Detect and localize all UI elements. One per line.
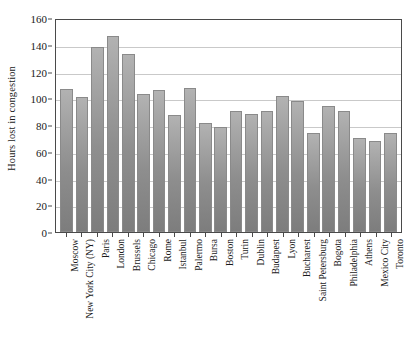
y-tick-mark	[48, 233, 52, 234]
x-tick-label: Toronto	[396, 239, 406, 269]
bar	[153, 90, 166, 232]
y-tick-mark	[48, 99, 52, 100]
y-tick-label: 100	[31, 94, 48, 105]
x-tick-label-cell: London	[106, 238, 119, 356]
x-tick-label-cell: Istanbul	[168, 238, 181, 356]
y-tick-label: 0	[42, 228, 48, 239]
bar	[184, 88, 197, 232]
y-tick-mark	[48, 206, 52, 207]
bar	[122, 54, 135, 232]
y-tick-mark	[48, 72, 52, 73]
bar	[214, 127, 227, 232]
x-tick-label-cell: Toronto	[385, 238, 398, 356]
x-axis-labels: MoscowNew York City (NY)ParisLondonBruss…	[55, 238, 402, 356]
y-tick-label: 40	[36, 174, 47, 185]
bar	[199, 123, 212, 232]
bar	[137, 94, 150, 232]
x-tick-label-cell: Budapest	[261, 238, 274, 356]
x-tick-label-cell: Palermo	[183, 238, 196, 356]
x-tick-label-cell: Bucharest	[292, 238, 305, 356]
bar	[307, 133, 320, 232]
bar	[76, 97, 89, 232]
x-tick-label-cell: Athens	[354, 238, 367, 356]
y-tick-mark	[48, 179, 52, 180]
x-tick-label-cell: Bogota	[323, 238, 336, 356]
x-tick-label-cell: Boston	[214, 238, 227, 356]
bar	[322, 106, 335, 232]
y-tick-mark	[48, 45, 52, 46]
y-tick-mark	[48, 126, 52, 127]
x-tick-label-cell: New York City (NY)	[75, 238, 88, 356]
y-tick-label: 160	[31, 14, 48, 25]
y-tick-mark	[48, 152, 52, 153]
bar-chart-figure: Hours lost in congestion 020406080100120…	[0, 0, 413, 356]
y-axis-ticks: 020406080100120140160	[0, 0, 52, 256]
x-tick-label-cell: Brussels	[121, 238, 134, 356]
x-tick-label-cell: Philadelphia	[338, 238, 351, 356]
bar-series	[56, 20, 401, 232]
x-tick-label-cell: Mexico City	[369, 238, 382, 356]
bar	[107, 36, 120, 232]
bar	[230, 111, 243, 232]
y-tick-mark	[48, 19, 52, 20]
bar	[338, 111, 351, 232]
bar	[291, 101, 304, 232]
bar	[276, 96, 289, 232]
y-tick-label: 120	[31, 67, 48, 78]
x-tick-label-cell: Lyon	[276, 238, 289, 356]
x-tick-label-cell: Bursa	[199, 238, 212, 356]
bar	[91, 47, 104, 233]
x-tick-label-cell: Chicago	[137, 238, 150, 356]
bar	[369, 141, 382, 232]
x-tick-label-cell: Turin	[230, 238, 243, 356]
x-tick-label-cell: Saint Petersburg	[307, 238, 320, 356]
x-tick-label-cell: Paris	[90, 238, 103, 356]
x-tick-label-cell: Dublin	[245, 238, 258, 356]
bar	[60, 89, 73, 232]
bar	[168, 115, 181, 232]
y-tick-label: 140	[31, 40, 48, 51]
plot-area	[55, 19, 402, 233]
bar	[353, 138, 366, 232]
y-tick-label: 60	[36, 147, 47, 158]
bar	[245, 114, 258, 232]
x-tick-label-cell: Rome	[152, 238, 165, 356]
y-tick-label: 80	[36, 121, 47, 132]
bar	[261, 111, 274, 232]
y-tick-label: 20	[36, 201, 47, 212]
bar	[384, 133, 397, 232]
x-tick-label-cell: Moscow	[59, 238, 72, 356]
